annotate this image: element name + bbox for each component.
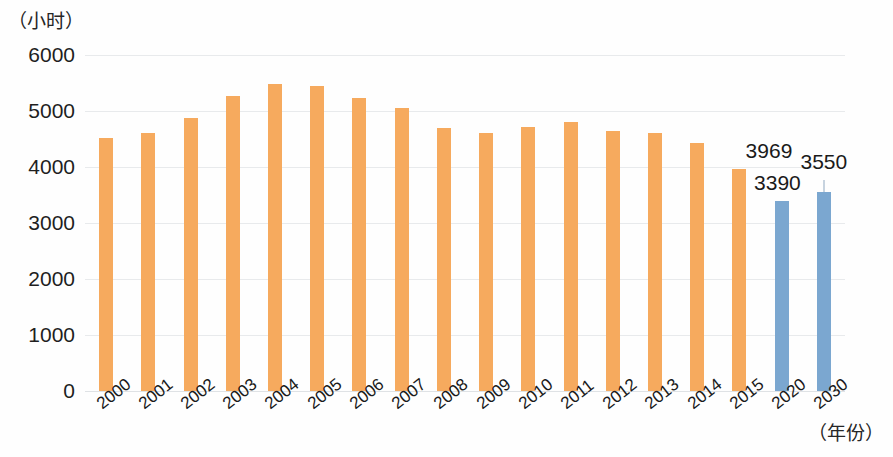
error-bar <box>823 180 824 192</box>
bar-group[interactable] <box>634 55 676 391</box>
bar-group[interactable] <box>296 55 338 391</box>
bar[interactable] <box>99 138 113 391</box>
plot-area: 396933903550 <box>85 55 845 391</box>
bar[interactable] <box>395 108 409 391</box>
bar-group[interactable] <box>423 55 465 391</box>
bar[interactable] <box>775 201 789 391</box>
bar-group[interactable] <box>507 55 549 391</box>
bar[interactable] <box>732 169 746 391</box>
y-axis-tick-label: 0 <box>3 379 75 403</box>
bar[interactable] <box>268 84 282 391</box>
bar-group[interactable]: 3550 <box>803 55 845 391</box>
bar-group[interactable] <box>381 55 423 391</box>
bar[interactable] <box>648 133 662 391</box>
bar-group[interactable] <box>465 55 507 391</box>
bar-group[interactable] <box>676 55 718 391</box>
bar-group[interactable] <box>212 55 254 391</box>
bar-group[interactable]: 3390 <box>761 55 803 391</box>
y-axis-tick-label: 6000 <box>3 43 75 67</box>
x-axis-unit-label: （年份） <box>808 418 884 445</box>
bar[interactable] <box>226 96 240 391</box>
bar[interactable] <box>437 128 451 391</box>
bar-group[interactable]: 3969 <box>718 55 760 391</box>
bar-value-label: 3390 <box>754 171 801 195</box>
bar-group[interactable] <box>85 55 127 391</box>
bar[interactable] <box>310 86 324 391</box>
bar-group[interactable] <box>592 55 634 391</box>
bar-group[interactable] <box>127 55 169 391</box>
bar-group[interactable] <box>254 55 296 391</box>
bar[interactable] <box>690 143 704 391</box>
y-axis-unit-label: （小时） <box>8 6 84 33</box>
bar[interactable] <box>352 98 366 391</box>
bar[interactable] <box>521 127 535 391</box>
bar[interactable] <box>606 131 620 391</box>
bar[interactable] <box>141 133 155 391</box>
bar[interactable] <box>184 118 198 391</box>
bar-chart: （小时） （年份） 6000500040003000200010000 3969… <box>0 0 893 457</box>
bar-group[interactable] <box>549 55 591 391</box>
bar-group[interactable] <box>338 55 380 391</box>
y-axis-tick-label: 3000 <box>3 211 75 235</box>
y-axis-tick-label: 2000 <box>3 267 75 291</box>
bar-value-label: 3550 <box>801 150 848 174</box>
bar[interactable] <box>479 133 493 391</box>
y-axis-tick-label: 5000 <box>3 99 75 123</box>
bars-layer: 396933903550 <box>85 55 845 391</box>
y-axis-tick-label: 4000 <box>3 155 75 179</box>
bar[interactable] <box>564 122 578 391</box>
bar[interactable] <box>817 192 831 391</box>
bar-group[interactable] <box>169 55 211 391</box>
y-axis-tick-label: 1000 <box>3 323 75 347</box>
